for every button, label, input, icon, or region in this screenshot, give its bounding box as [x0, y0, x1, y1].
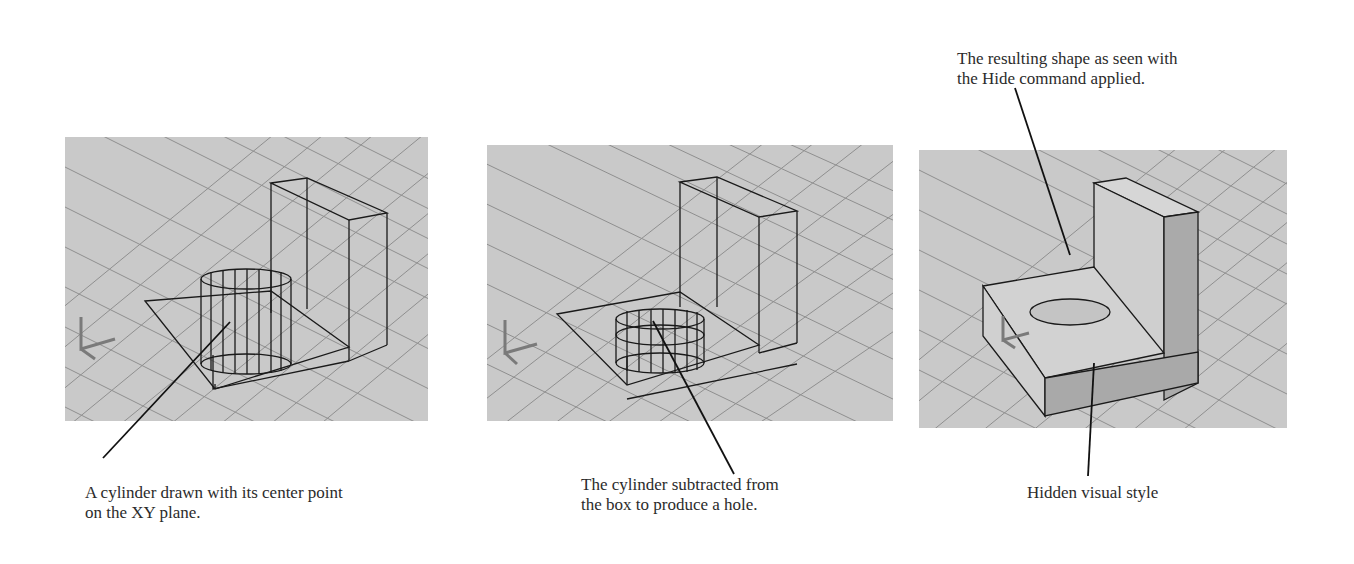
caption-subtracted-line2: the box to produce a hole. — [581, 495, 779, 515]
hidden-style-drawing — [919, 150, 1287, 428]
solid-shape — [983, 178, 1198, 416]
viewport-subtracted-hole — [487, 145, 893, 421]
caption-hide-line2: the Hide command applied. — [957, 69, 1177, 89]
wireframe-cylinder-drawing — [65, 137, 428, 421]
caption-hide-line1: The resulting shape as seen with — [957, 49, 1177, 69]
caption-cylinder-line2: on the XY plane. — [85, 503, 343, 523]
caption-subtracted: The cylinder subtracted from the box to … — [581, 475, 779, 515]
caption-hide-command: The resulting shape as seen with the Hid… — [957, 49, 1177, 89]
caption-cylinder: A cylinder drawn with its center point o… — [85, 483, 343, 523]
caption-hidden-style-text: Hidden visual style — [1027, 483, 1158, 503]
ucs-icon — [505, 320, 537, 364]
caption-cylinder-line1: A cylinder drawn with its center point — [85, 483, 343, 503]
caption-subtracted-line1: The cylinder subtracted from — [581, 475, 779, 495]
subtracted-hole-drawing — [487, 145, 893, 421]
viewport-hidden-style — [919, 150, 1287, 428]
viewport-wireframe-cylinder — [65, 137, 428, 421]
caption-hidden-style: Hidden visual style — [1027, 483, 1158, 503]
